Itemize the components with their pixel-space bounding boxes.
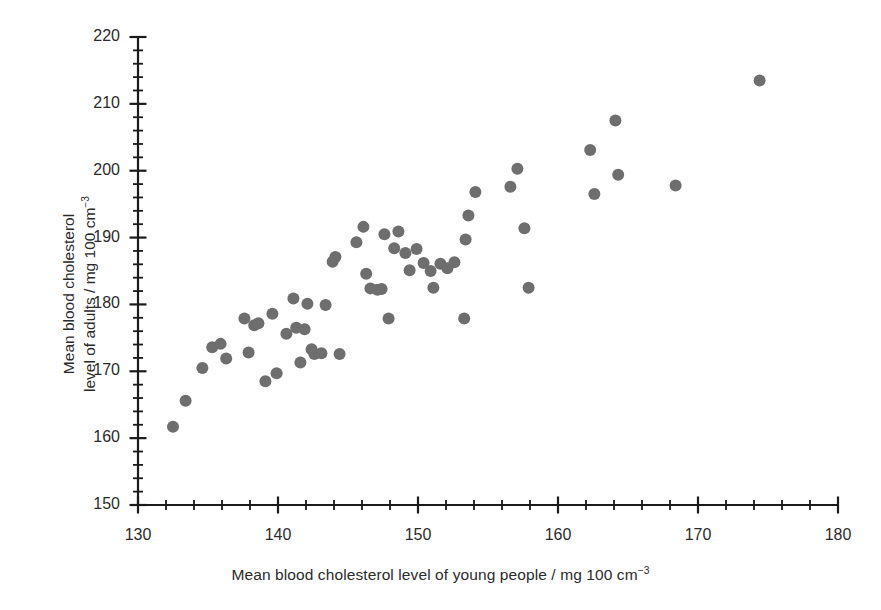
data-point (215, 338, 227, 350)
data-point (458, 312, 470, 324)
data-point (462, 210, 474, 222)
data-point (754, 74, 766, 86)
data-point (334, 348, 346, 360)
data-point (584, 144, 596, 156)
data-point (448, 256, 460, 268)
data-point (266, 308, 278, 320)
x-axis-title: Mean blood cholesterol level of young pe… (0, 566, 881, 584)
data-point (299, 323, 311, 335)
y-axis-title-exponent: −3 (80, 196, 91, 208)
data-point (427, 282, 439, 294)
data-point (609, 115, 621, 127)
y-axis-tick-label: 200 (76, 161, 120, 179)
scatter-chart-figure: Mean blood cholesterol level of adults /… (0, 0, 881, 610)
x-axis-title-exponent: −3 (638, 565, 650, 576)
y-axis-tick-label: 170 (76, 361, 120, 379)
data-point (469, 186, 481, 198)
data-point (518, 222, 530, 234)
data-point (360, 268, 372, 280)
data-point (329, 251, 341, 263)
data-point (294, 357, 306, 369)
y-axis-tick-label: 210 (76, 94, 120, 112)
y-axis-tick-label: 220 (76, 27, 120, 45)
data-point (271, 367, 283, 379)
data-point (220, 353, 232, 365)
data-point (320, 299, 332, 311)
x-axis-tick-label: 180 (813, 526, 863, 544)
x-axis-tick-label: 170 (673, 526, 723, 544)
x-axis-tick-label: 160 (533, 526, 583, 544)
data-point (511, 163, 523, 175)
data-point (404, 264, 416, 276)
data-point (259, 375, 271, 387)
data-point (196, 362, 208, 374)
data-point (588, 188, 600, 200)
x-axis-tick-label: 130 (113, 526, 163, 544)
data-point (388, 242, 400, 254)
plot-canvas (0, 0, 881, 610)
data-point (383, 312, 395, 324)
data-point (301, 298, 313, 310)
data-point (376, 283, 388, 295)
data-point (523, 282, 535, 294)
data-point (460, 234, 472, 246)
x-axis-tick-label: 140 (253, 526, 303, 544)
data-point-group (167, 74, 766, 432)
y-axis-tick-label: 180 (76, 294, 120, 312)
data-point (378, 228, 390, 240)
data-point (287, 292, 299, 304)
data-point (167, 421, 179, 433)
data-point (411, 243, 423, 255)
data-point (425, 265, 437, 277)
data-point (350, 236, 362, 248)
data-point (243, 347, 255, 359)
data-point (392, 226, 404, 238)
data-point (238, 312, 250, 324)
x-axis-title-text: Mean blood cholesterol level of young pe… (231, 566, 637, 583)
data-point (252, 317, 264, 329)
data-point (180, 395, 192, 407)
data-point (612, 169, 624, 181)
y-axis-tick-label: 190 (76, 228, 120, 246)
y-axis-tick-label: 160 (76, 428, 120, 446)
x-axis-tick-label: 150 (393, 526, 443, 544)
data-point (504, 181, 516, 193)
data-point (315, 347, 327, 359)
data-point (357, 221, 369, 233)
data-point (670, 179, 682, 191)
y-axis-tick-label: 150 (76, 495, 120, 513)
data-point (399, 247, 411, 259)
